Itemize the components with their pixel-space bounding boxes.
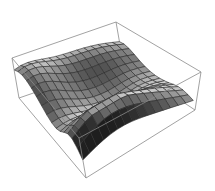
box-edge: [12, 58, 19, 98]
surface-plot: [0, 0, 215, 191]
box-edge: [195, 72, 201, 110]
surface-mesh: [14, 42, 193, 160]
